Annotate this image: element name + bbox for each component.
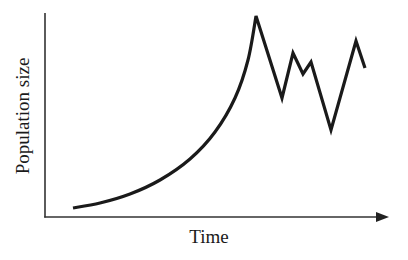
population-chart: Time Population size [0,0,408,260]
x-axis-label: Time [189,226,228,247]
x-axis-arrowhead [376,212,389,222]
y-axis-label: Population size [12,58,33,175]
population-line [73,16,365,208]
